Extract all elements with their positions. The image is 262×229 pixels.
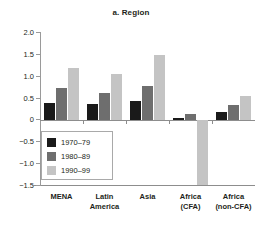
bar-2 [111, 74, 122, 120]
x-label-line1: Africa [180, 192, 201, 201]
x-axis-labels: MENALatinAmericaAsiaAfrica(CFA)Africa(no… [40, 192, 255, 228]
bar-0 [173, 118, 184, 120]
y-axis-labels: 2.01.51.00.50−0.5−1.0−1.5 [0, 0, 34, 229]
x-label-line2: (non-CFA) [206, 202, 261, 212]
y-axis-tick [36, 185, 41, 186]
bar-0 [44, 103, 55, 120]
y-axis-tick-label: 1.0 [0, 71, 34, 80]
y-axis-tick-label: −0.5 [0, 137, 34, 146]
x-label-line1: MENA [50, 192, 72, 201]
y-axis-tick [36, 119, 41, 120]
bar-1 [142, 86, 153, 120]
y-axis-tick-label: 1.5 [0, 49, 34, 58]
x-axis-tick [83, 120, 84, 124]
x-label-line1: Latin [96, 192, 114, 201]
page-title: a. Region [0, 8, 262, 17]
y-axis-tick-label: 0 [0, 115, 34, 124]
bar-0 [87, 104, 98, 120]
bar-1 [99, 93, 110, 120]
bar-2 [154, 55, 165, 120]
bar-1 [228, 105, 239, 120]
bar-2 [240, 96, 251, 120]
x-axis-line [32, 185, 255, 186]
y-axis-tick [36, 163, 41, 164]
bar-group [216, 32, 251, 185]
bar-0 [216, 112, 227, 120]
bar-group [130, 32, 165, 185]
y-axis-tick-label: −1.5 [0, 181, 34, 190]
x-label-line1: Africa [223, 192, 244, 201]
y-axis-tick [36, 54, 41, 55]
bar-1 [56, 88, 67, 120]
x-axis-tick [169, 120, 170, 124]
y-axis-tick [36, 32, 41, 33]
bar-1 [185, 114, 196, 120]
bar-group [173, 32, 208, 185]
y-axis-tick [36, 76, 41, 77]
bar-0 [130, 101, 141, 120]
x-axis-category-label: Africa(non-CFA) [206, 192, 261, 212]
y-axis-tick-label: −1.0 [0, 159, 34, 168]
x-axis-tick [126, 120, 127, 124]
bar-2 [197, 120, 208, 185]
bar-group [44, 32, 79, 185]
y-axis-tick-label: 2.0 [0, 28, 34, 37]
y-axis-tick [36, 141, 41, 142]
x-axis-tick [212, 120, 213, 124]
bar-2 [68, 68, 79, 120]
y-axis-tick-label: 0.5 [0, 93, 34, 102]
x-label-line2: America [77, 202, 132, 212]
chart-figure: a. Region 2.01.51.00.50−0.5−1.0−1.5 MENA… [0, 0, 262, 229]
y-axis-tick [36, 98, 41, 99]
x-label-line1: Asia [140, 192, 156, 201]
bar-group [87, 32, 122, 185]
